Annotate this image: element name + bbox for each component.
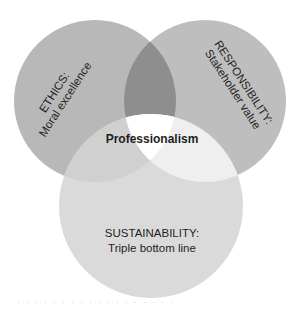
venn-diagram: ETHICS: Moral excellence RESPONSIBILITY:…	[0, 0, 304, 314]
faded-caption	[14, 301, 174, 304]
sustainability-title: SUSTAINABILITY:	[105, 227, 199, 239]
center-label: Professionalism	[106, 132, 199, 146]
sustainability-subtitle: Triple bottom line	[108, 242, 196, 254]
